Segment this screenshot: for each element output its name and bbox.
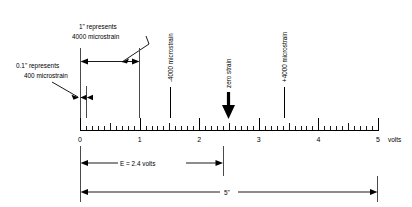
marker-minus-4000-label: -4000 microstrain [167,33,174,82]
ruler-tick-group [81,118,379,131]
voltage-dimension: E = 2.4 volts [81,146,224,176]
marker-plus-4000: +4000 microstrain [281,31,288,118]
inch-scale-leader [122,36,149,64]
marker-plus-4000-label: +4000 microstrain [281,31,288,82]
ruler-scale [80,118,379,131]
tick-number-label-group: 012345 [78,136,380,143]
voltage-dimension-label: E = 2.4 volts [120,160,155,167]
units-label: volts [388,136,401,143]
tenth-inch-callout-line1: 0.1" represents [16,62,59,70]
total-length-dimension-label: 5" [224,189,230,196]
tenth-inch-leader [52,82,79,100]
scale-figure: 1" represents 4000 microstrain 0.1" repr… [0,0,412,207]
inch-scale-callout-line2: 4000 microstrain [72,33,120,40]
ruler-tick-label: 3 [257,136,261,143]
ruler-tick-label: 0 [78,136,82,143]
ruler-tick-label: 2 [197,136,201,143]
marker-minus-4000: -4000 microstrain [167,33,174,118]
inch-scale-callout-line1: 1" represents [79,23,117,31]
ruler-tick-label: 5 [376,136,380,143]
tenth-inch-callout-line2: 400 microstrain [24,72,68,79]
marker-zero-strain: zero strain [222,58,235,119]
marker-zero-strain-label: zero strain [225,58,232,88]
scale-diagram-root: 1" represents 4000 microstrain 0.1" repr… [0,0,412,207]
total-length-dimension: 5" [81,176,378,202]
ruler-tick-label: 4 [316,136,320,143]
one-inch-dimension [81,59,140,65]
ruler-tick-label: 1 [138,136,142,143]
tenth-inch-dimension [81,86,94,118]
